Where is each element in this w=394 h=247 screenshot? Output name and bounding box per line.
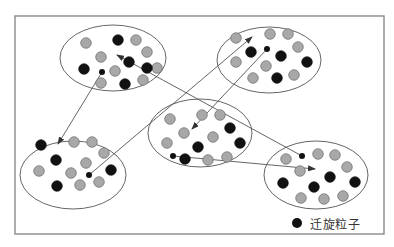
normal-particle-icon [66,168,77,179]
migrating-particle-icon [278,178,289,189]
normal-particle-icon [96,52,107,63]
migrating-particle-icon [124,57,135,68]
legend [292,218,302,228]
migrating-particle-icon [52,181,63,192]
particle-migration-diagram [0,0,394,247]
normal-particle-icon [231,57,242,68]
normal-particle-icon [152,63,163,74]
normal-particle-icon [81,38,92,49]
migrating-particle-icon [142,63,153,74]
migrating-particle-icon [325,172,336,183]
normal-particle-icon [293,42,304,53]
migrating-particle-icon [51,155,62,166]
normal-particle-icon [197,110,208,121]
normal-particle-icon [338,191,349,202]
particles [34,29,361,205]
departing-particle-icon [99,69,105,75]
departing-particle-icon [170,153,176,159]
normal-particle-icon [142,47,153,58]
normal-particle-icon [248,73,259,84]
migrating-particle-icon [193,142,204,153]
normal-particle-icon [138,75,149,86]
cluster-ellipses [20,25,368,209]
normal-particle-icon [319,194,330,205]
migrating-particle-icon [350,177,361,188]
migrating-particle-icon [225,123,236,134]
normal-particle-icon [330,150,341,161]
normal-particle-icon [96,78,107,89]
migrating-particle-icon [309,182,320,193]
normal-particle-icon [222,152,233,163]
departing-particle-icon [264,46,270,52]
normal-particle-icon [289,70,300,81]
normal-particle-icon [165,114,176,125]
migrating-particle-icon [106,165,117,176]
normal-particle-icon [281,154,292,165]
normal-particle-icon [296,193,307,204]
cluster-top-left [60,25,166,91]
departing-particle-icon [299,153,305,159]
normal-particle-icon [265,29,276,40]
migrating-particle-icon [276,51,287,62]
migrating-particle-icon [113,35,124,46]
migrating-particle-icon [36,140,47,151]
normal-particle-icon [283,29,294,40]
normal-particle-icon [203,155,214,166]
normal-particle-icon [75,180,86,191]
migrating-particle-icon [235,138,246,149]
migrating-particle-icon [302,57,313,68]
departing-particle-icon [86,172,92,178]
migrating-particle-icon [272,73,283,84]
migrating-particle-icon [180,154,191,165]
normal-particle-icon [99,148,110,159]
normal-particle-icon [94,177,105,188]
normal-particle-icon [342,162,353,173]
migrating-particle-icon [246,47,257,58]
normal-particle-icon [34,166,45,177]
normal-particle-icon [295,166,306,177]
normal-particle-icon [231,33,242,44]
normal-particle-icon [69,137,80,148]
normal-particle-icon [179,128,190,139]
normal-particle-icon [110,66,121,77]
normal-particle-icon [215,110,226,121]
normal-particle-icon [87,137,98,148]
normal-particle-icon [131,35,142,46]
cluster-center [148,99,252,167]
migrating-particle-icon [120,79,131,90]
migrating-particle-icon [79,64,90,75]
normal-particle-icon [81,158,92,169]
normal-particle-icon [261,61,272,72]
normal-particle-icon [313,149,324,160]
legend-migrating-particle-icon [292,218,302,228]
normal-particle-icon [162,138,173,149]
normal-particle-icon [208,132,219,143]
legend-label: 迁旋粒子 [310,215,360,232]
